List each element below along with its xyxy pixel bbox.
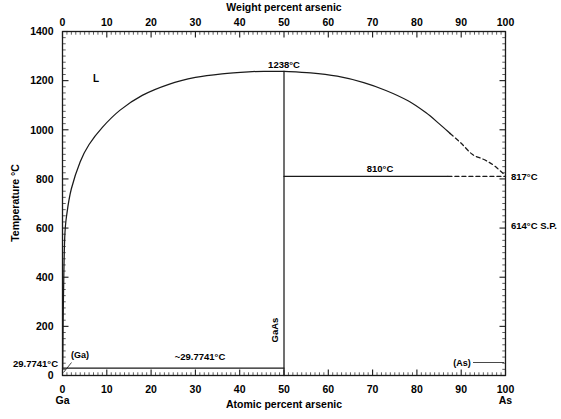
bottom-axis-tick-labels: 0102030405060708090100 — [60, 383, 515, 395]
top-tick-label-0: 0 — [60, 16, 66, 28]
bottom-tick-label-100: 100 — [497, 383, 515, 395]
left-tick-label-1200: 1200 — [30, 74, 54, 86]
bottom-tick-label-20: 20 — [145, 383, 157, 395]
ga-phase-leader-line — [64, 363, 72, 373]
sublimation-point-label: 614°C S.P. — [511, 220, 557, 231]
ga-endpoint-label: Ga — [55, 394, 69, 406]
liquid-region-label: L — [93, 73, 99, 84]
top-tick-label-20: 20 — [145, 16, 157, 28]
left-tick-label-1000: 1000 — [30, 124, 54, 136]
left-tick-label-800: 800 — [36, 173, 54, 185]
as-endpoint-label: As — [499, 394, 513, 406]
top-tick-label-100: 100 — [497, 16, 515, 28]
curve-liquidus-as-rich-solid — [284, 71, 450, 133]
top-tick-label-60: 60 — [322, 16, 334, 28]
top-axis-title: Weight percent arsenic — [226, 1, 342, 13]
top-tick-label-90: 90 — [455, 16, 467, 28]
bottom-tick-label-40: 40 — [234, 383, 246, 395]
left-tick-label-0: 0 — [48, 369, 54, 381]
bottom-axis-title: Atomic percent arsenic — [226, 398, 342, 410]
top-tick-label-80: 80 — [411, 16, 423, 28]
phase-boundary-curves — [63, 71, 506, 375]
eutectic-810-label: 810°C — [367, 163, 394, 174]
bottom-tick-label-0: 0 — [60, 383, 66, 395]
top-tick-label-70: 70 — [367, 16, 379, 28]
curve-liquidus-as-rich-extrapolated — [450, 133, 505, 174]
top-axis-ticks — [63, 32, 506, 38]
ga-solid-phase-label: (Ga) — [71, 350, 89, 360]
gaas-compound-label: GaAs — [269, 318, 280, 343]
phase-diagram-canvas: 0102030405060708090100 01020304050607080… — [0, 0, 561, 419]
left-tick-label-200: 200 — [36, 320, 54, 332]
left-axis-tick-labels: 0200400600800100012001400 — [30, 25, 54, 381]
left-axis-title: Temperature °C — [9, 164, 21, 242]
curve-liquidus-ga-rich-solid — [63, 71, 284, 368]
bottom-tick-label-90: 90 — [455, 383, 467, 395]
as-melting-817-label: 817°C — [511, 171, 538, 182]
right-axis-ticks — [500, 32, 506, 376]
phase-diagram-figure: 0102030405060708090100 01020304050607080… — [0, 0, 561, 419]
ga-eutectic-axis-label: 29.7741°C — [13, 358, 58, 369]
bottom-tick-label-10: 10 — [101, 383, 113, 395]
top-axis-tick-labels: 0102030405060708090100 — [60, 16, 515, 28]
as-solid-phase-label: (As) — [453, 358, 471, 368]
bottom-tick-label-60: 60 — [322, 383, 334, 395]
bottom-tick-label-80: 80 — [411, 383, 423, 395]
left-tick-label-1400: 1400 — [30, 25, 54, 37]
top-tick-label-50: 50 — [278, 16, 290, 28]
top-tick-label-40: 40 — [234, 16, 246, 28]
bottom-tick-label-30: 30 — [190, 383, 202, 395]
top-tick-label-10: 10 — [101, 16, 113, 28]
congruent-melting-label: 1238°C — [268, 59, 300, 70]
bottom-tick-label-70: 70 — [367, 383, 379, 395]
bottom-tick-label-50: 50 — [278, 383, 290, 395]
left-tick-label-400: 400 — [36, 271, 54, 283]
ga-eutectic-line-label: ~29.7741°C — [175, 351, 226, 362]
left-tick-label-600: 600 — [36, 222, 54, 234]
top-tick-label-30: 30 — [190, 16, 202, 28]
